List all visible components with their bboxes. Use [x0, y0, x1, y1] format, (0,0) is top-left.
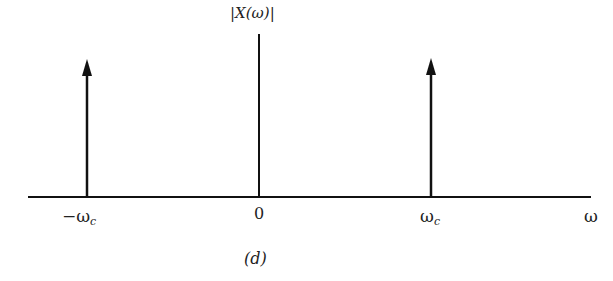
- spectrum-plot: [0, 0, 613, 281]
- tick-neg-sub: c: [90, 215, 96, 228]
- tick-zero-text: 0: [254, 204, 264, 223]
- y-axis-label-text: |X(ω)|: [230, 4, 275, 22]
- x-axis-label: ω: [584, 206, 598, 226]
- caption-text: (d): [244, 249, 267, 268]
- tick-label-neg-omega-c: −ωc: [62, 206, 96, 228]
- impulse-pos-omega-c: [426, 58, 436, 197]
- tick-pos-sub: c: [434, 215, 440, 228]
- tick-label-pos-omega-c: ωc: [420, 206, 440, 228]
- impulse-neg-omega-c: [82, 59, 92, 197]
- tick-neg-prefix: −ω: [62, 206, 90, 226]
- tick-label-zero: 0: [254, 204, 264, 223]
- x-axis-label-text: ω: [584, 206, 598, 226]
- y-axis-label: |X(ω)|: [230, 4, 275, 22]
- figure-caption: (d): [244, 249, 267, 268]
- tick-pos-prefix: ω: [420, 206, 434, 226]
